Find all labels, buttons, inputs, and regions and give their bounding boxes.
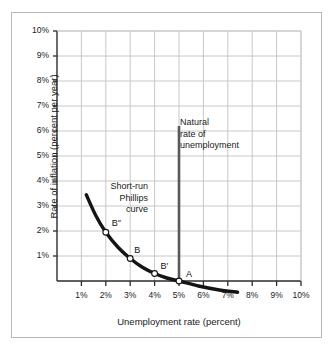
curve-point-markers [103,229,182,284]
x-axis-tick-label: 5% [166,290,192,300]
natural-rate-label-line-3: unemployment [180,140,239,152]
x-axis-tick-label: 3% [117,290,143,300]
x-axis-tick-label: 8% [239,290,265,300]
y-axis-tick-label: 1% [23,250,49,260]
x-axis-title: Unemployment rate (percent) [57,316,301,327]
curve-point-label: B [134,245,140,255]
y-axis-tick-label: 5% [23,150,49,160]
curve-point-marker [152,271,158,277]
y-axis-title: Rate of inflation (percent per year) [48,47,59,247]
curve-point-label: B′ [161,261,169,271]
short-run-label-line-1: Short-run [96,181,148,193]
y-axis-tick-label: 4% [23,175,49,185]
y-axis-tick-label: 7% [23,100,49,110]
curve-point-marker [103,229,109,235]
natural-rate-of-unemployment-label: Natural rate of unemployment [180,117,239,152]
curve-point-label: A [186,269,192,279]
short-run-phillips-curve-label: Short-run Phillips curve [96,181,148,216]
y-axis-tick-label: 6% [23,125,49,135]
x-axis-tick-label: 10% [288,290,314,300]
x-axis-tick-label: 9% [264,290,290,300]
y-axis-tick-label: 10% [23,25,49,35]
short-run-label-line-2: Phillips [96,193,148,205]
natural-rate-label-line-2: rate of [180,129,239,141]
x-axis-tick-label: 2% [93,290,119,300]
y-axis-tick-label: 3% [23,200,49,210]
natural-rate-label-line-1: Natural [180,117,239,129]
x-axis-tick-label: 1% [68,290,94,300]
y-axis-tick-label: 2% [23,225,49,235]
y-axis-tick-label: 8% [23,75,49,85]
curve-point-marker [176,278,182,284]
x-axis-tick-label: 6% [190,290,216,300]
x-axis-tick-label: 4% [142,290,168,300]
x-axis-tick-label: 7% [215,290,241,300]
curve-point-label: B″ [112,218,121,228]
short-run-label-line-3: curve [96,204,148,216]
y-axis-tick-label: 9% [23,50,49,60]
curve-point-marker [127,256,133,262]
phillips-curve-chart: 1%2%3%4%5%6%7%8%9%10% 1%2%3%4%5%6%7%8%9%… [0,0,334,353]
